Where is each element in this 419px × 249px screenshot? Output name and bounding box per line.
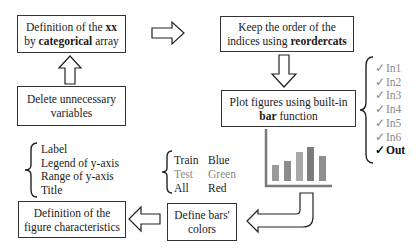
check-icon: ✓ bbox=[375, 117, 386, 131]
reordercats-box: Keep the order of the indices using reor… bbox=[220, 16, 354, 52]
box-text: Plot figures using built-in bbox=[230, 95, 348, 109]
box-text: function bbox=[277, 110, 318, 122]
variable-label: In2 bbox=[386, 76, 401, 88]
list-item: Legend of y-axis bbox=[41, 157, 119, 171]
list-item: ✓In3 bbox=[375, 89, 405, 103]
list-item: Label bbox=[41, 143, 119, 157]
check-icon: ✓ bbox=[375, 89, 386, 103]
box-text-bold: categorical bbox=[39, 35, 93, 47]
figure-characteristics-box: Definition of the figure characteristics bbox=[18, 201, 126, 238]
box-text: by bbox=[24, 35, 38, 47]
bar-colors-list: Train Blue Test Green All Red bbox=[174, 153, 236, 195]
color-row: All Red bbox=[174, 181, 236, 195]
brace-icon bbox=[25, 143, 37, 197]
color-label: Blue bbox=[208, 153, 230, 167]
box-text: Definition of the bbox=[24, 206, 120, 220]
list-item: ✓In6 bbox=[375, 131, 405, 145]
variable-label: In1 bbox=[386, 62, 401, 74]
box-text: indices using bbox=[227, 35, 290, 47]
check-icon: ✓ bbox=[375, 103, 386, 117]
brace-icon bbox=[360, 57, 373, 163]
dataset-label: Test bbox=[174, 167, 208, 181]
plotted-variables-list: ✓In1 ✓In2 ✓In3 ✓In4 ✓In5 ✓In6 ✓Out bbox=[375, 62, 405, 158]
color-row: Test Green bbox=[174, 167, 236, 181]
curved-arrow-icon bbox=[247, 193, 313, 232]
check-icon: ✓ bbox=[375, 62, 386, 76]
check-icon: ✓ bbox=[375, 144, 386, 158]
color-label: Green bbox=[208, 167, 236, 181]
box-text: figure characteristics bbox=[24, 220, 120, 234]
define-colors-box: Define bars' colors bbox=[167, 203, 237, 241]
check-icon: ✓ bbox=[375, 131, 386, 145]
variable-label: In3 bbox=[386, 89, 401, 101]
box-text: Keep the order of the bbox=[227, 20, 347, 34]
box-text: Delete unnecessary bbox=[27, 92, 116, 106]
plot-bar-box: Plot figures using built-in bar function bbox=[221, 90, 356, 127]
arrow-left-icon bbox=[129, 207, 160, 231]
box-text-bold: xx bbox=[106, 21, 118, 33]
figure-characteristics-list: Label Legend of y-axis Range of y-axis T… bbox=[41, 143, 119, 197]
box-text: Definition of the bbox=[26, 21, 106, 33]
dataset-label: Train bbox=[174, 153, 208, 167]
brace-icon bbox=[162, 151, 172, 193]
list-item: ✓In2 bbox=[375, 76, 405, 90]
arrow-up-icon bbox=[59, 56, 81, 84]
list-item: ✓In1 bbox=[375, 62, 405, 76]
color-label: Red bbox=[208, 181, 227, 195]
list-item: ✓Out bbox=[375, 144, 405, 158]
arrow-down-icon bbox=[272, 55, 296, 87]
definition-xx-box: Definition of the xx by categorical arra… bbox=[17, 15, 126, 53]
variable-label: In6 bbox=[386, 131, 401, 143]
box-text: Define bars' bbox=[174, 208, 229, 222]
box-text: variables bbox=[27, 106, 116, 120]
delete-variables-box: Delete unnecessary variables bbox=[17, 86, 126, 126]
variable-label: In4 bbox=[386, 103, 401, 115]
box-text-bold: reordercats bbox=[290, 35, 346, 47]
bar-chart-icon bbox=[265, 129, 332, 187]
box-text: colors bbox=[174, 222, 229, 236]
variable-label: In5 bbox=[386, 117, 401, 129]
list-item: Range of y-axis bbox=[41, 170, 119, 184]
list-item: Title bbox=[41, 184, 119, 198]
color-row: Train Blue bbox=[174, 153, 236, 167]
list-item: ✓In4 bbox=[375, 103, 405, 117]
variable-label: Out bbox=[386, 144, 405, 156]
box-text: array bbox=[92, 35, 119, 47]
arrow-right-icon bbox=[152, 22, 184, 44]
box-text-bold: bar bbox=[259, 110, 276, 122]
list-item: ✓In5 bbox=[375, 117, 405, 131]
check-icon: ✓ bbox=[375, 76, 386, 90]
dataset-label: All bbox=[174, 181, 208, 195]
